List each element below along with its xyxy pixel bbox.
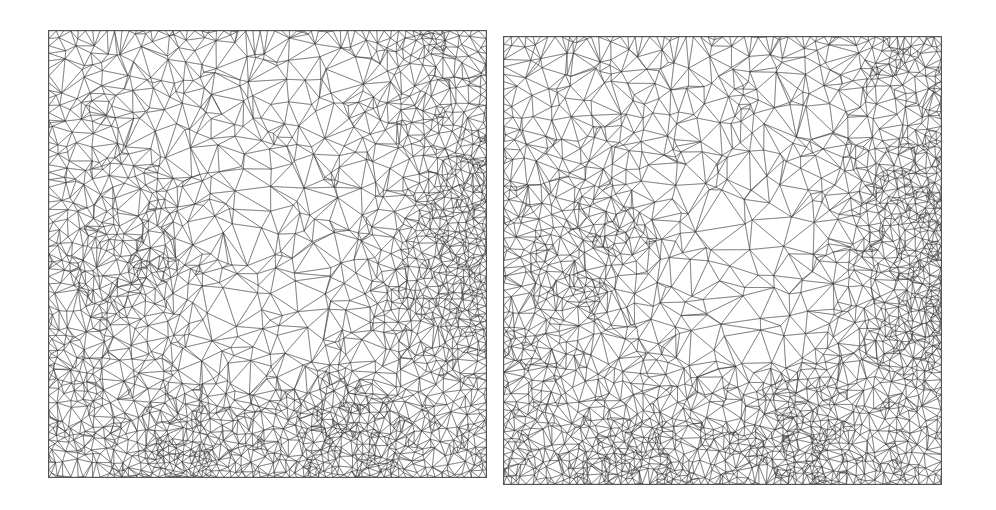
mesh-panel-right [503, 36, 942, 485]
mesh-left-svg [49, 31, 486, 477]
mesh-edges [504, 37, 941, 484]
mesh-edges [49, 31, 486, 477]
mesh-right-svg [504, 37, 941, 484]
mesh-panel-left [48, 30, 487, 478]
